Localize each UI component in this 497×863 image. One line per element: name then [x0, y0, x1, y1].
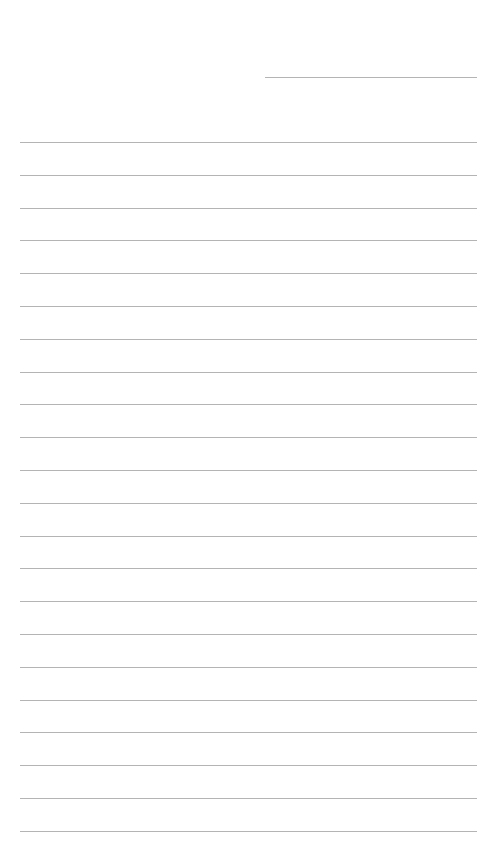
writing-line [20, 503, 477, 504]
writing-line [20, 273, 477, 274]
writing-line [20, 732, 477, 733]
writing-line [20, 798, 477, 799]
writing-line [20, 765, 477, 766]
writing-line [20, 667, 477, 668]
writing-line [20, 700, 477, 701]
writing-line [20, 142, 477, 143]
writing-line [20, 404, 477, 405]
writing-line [20, 536, 477, 537]
writing-line [20, 601, 477, 602]
writing-line [20, 208, 477, 209]
writing-line [20, 568, 477, 569]
writing-line [20, 240, 477, 241]
writing-line [20, 306, 477, 307]
writing-lines [0, 0, 497, 863]
lined-paper-page [0, 0, 497, 863]
writing-line [20, 470, 477, 471]
writing-line [20, 372, 477, 373]
writing-line [20, 437, 477, 438]
writing-line [20, 175, 477, 176]
writing-line [20, 339, 477, 340]
writing-line [20, 831, 477, 832]
writing-line [20, 634, 477, 635]
